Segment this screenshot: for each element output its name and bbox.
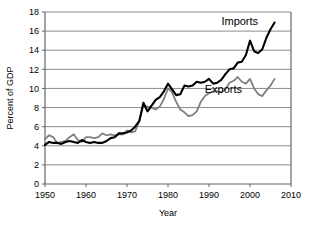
x-tick-label: 1950	[35, 190, 55, 200]
chart-figure: 024681012141618 195019601970198019902000…	[0, 0, 309, 228]
y-tick-label: 14	[29, 45, 39, 55]
x-tick-label: 1970	[117, 190, 137, 200]
y-tick-label: 0	[34, 179, 39, 189]
y-tick-label: 8	[34, 103, 39, 113]
y-tick-label: 4	[34, 141, 39, 151]
x-tick-label: 1980	[158, 190, 178, 200]
x-tick-label: 2010	[281, 190, 301, 200]
x-axis-title: Year	[159, 208, 177, 218]
y-axis-title: Percent of GDP	[5, 66, 15, 129]
series-annotation-imports: Imports	[221, 15, 258, 27]
y-tick-label: 16	[29, 26, 39, 36]
x-tick-label: 1960	[76, 190, 96, 200]
x-tick-label: 2000	[240, 190, 260, 200]
y-tick-label: 18	[29, 7, 39, 17]
x-tick-label: 1990	[199, 190, 219, 200]
series-annotation-exports: Exports	[205, 83, 243, 95]
line-chart: 024681012141618 195019601970198019902000…	[0, 0, 309, 228]
y-tick-label: 6	[34, 122, 39, 132]
y-tick-label: 12	[29, 65, 39, 75]
y-tick-label: 10	[29, 84, 39, 94]
y-tick-label: 2	[34, 160, 39, 170]
